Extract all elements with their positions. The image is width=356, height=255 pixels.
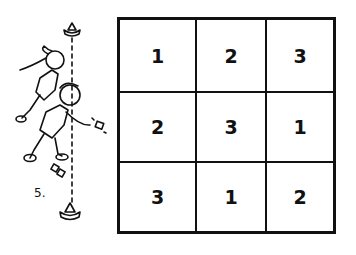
grid-cell: 1: [120, 20, 197, 93]
grid-cell: 1: [267, 93, 333, 163]
grid-cell: 3: [267, 20, 333, 93]
bean-bag-thrown-icon: [95, 121, 104, 129]
number-grid: 1 2 3 2 3 1 3 1 2: [117, 17, 336, 234]
grid-cell: 1: [197, 163, 267, 231]
grid-cell: 3: [120, 163, 197, 231]
grid-cell: 3: [197, 93, 267, 163]
child-boy-icon: [24, 83, 90, 161]
grid-cell: 2: [197, 20, 267, 93]
grid-cell: 2: [120, 93, 197, 163]
cone-bottom-icon: [60, 203, 80, 220]
cone-top-icon: [64, 23, 80, 36]
bean-bags-dropped-icon: [51, 164, 65, 177]
grid-cell: 2: [267, 163, 333, 231]
child-girl-icon: [16, 46, 64, 122]
relay-illustration: [0, 0, 120, 255]
figure: 5. 1 2 3 2 3 1 3 1 2: [0, 0, 356, 255]
step-label: 5.: [34, 186, 45, 200]
